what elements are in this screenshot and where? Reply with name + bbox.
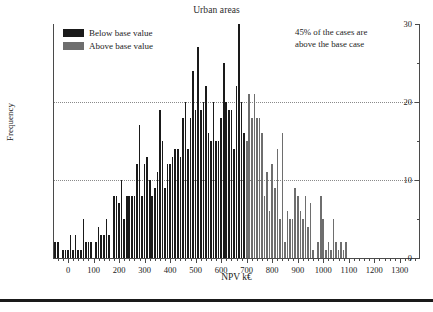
x-tick-minor <box>114 258 115 261</box>
histogram-bar <box>182 118 184 258</box>
x-tick-minor <box>134 258 135 261</box>
x-tick-0 <box>68 258 69 263</box>
histogram-bar <box>126 196 128 258</box>
histogram-bar <box>192 71 194 258</box>
histogram-bar <box>159 110 161 258</box>
x-tick-minor <box>267 258 268 261</box>
legend-swatch-above <box>63 42 84 50</box>
x-tick-minor <box>211 258 212 261</box>
histogram-bar <box>340 242 342 258</box>
y-axis-title: Frequency <box>5 103 15 141</box>
x-tick-label-1100: 1100 <box>340 265 357 275</box>
histogram-bar <box>333 219 335 258</box>
histogram-bar <box>77 250 79 258</box>
histogram-bar <box>67 250 69 258</box>
histogram-bar <box>141 196 143 258</box>
x-tick-minor <box>288 258 289 261</box>
x-tick-minor <box>191 258 192 261</box>
histogram-bar <box>243 133 245 258</box>
x-tick-label-900: 900 <box>291 265 304 275</box>
x-tick-minor <box>201 258 202 261</box>
histogram-bar <box>100 235 102 258</box>
x-tick-minor <box>318 258 319 261</box>
histogram-bar <box>213 102 215 258</box>
histogram-bar <box>335 242 337 258</box>
x-tick-minor <box>140 258 141 261</box>
x-tick-1000 <box>323 258 324 263</box>
histogram-bar <box>302 219 304 258</box>
annotation-line-1: 45% of the cases are <box>295 27 367 39</box>
x-tick-minor <box>83 258 84 261</box>
x-tick-minor <box>257 258 258 261</box>
histogram-bar <box>215 141 217 258</box>
histogram-bar <box>75 235 77 258</box>
histogram-bar <box>312 250 314 258</box>
histogram-bar <box>208 133 210 258</box>
histogram-bar <box>223 63 225 258</box>
x-tick-minor <box>369 258 370 261</box>
x-tick-300 <box>145 258 146 263</box>
histogram-bar <box>233 149 235 258</box>
x-tick-minor <box>395 258 396 261</box>
x-tick-minor <box>359 258 360 261</box>
x-tick-minor <box>88 258 89 261</box>
histogram-bar <box>123 219 125 258</box>
histogram-bar <box>177 149 179 258</box>
x-tick-minor <box>160 258 161 261</box>
histogram-bar <box>305 196 307 258</box>
histogram-bar <box>131 196 133 258</box>
histogram-bar <box>345 242 347 258</box>
x-tick-minor <box>242 258 243 261</box>
histogram-bar <box>261 133 263 258</box>
histogram-bar <box>57 242 59 258</box>
histogram-bar <box>300 211 302 258</box>
histogram-bar <box>139 125 141 258</box>
histogram-bar <box>282 133 284 258</box>
x-tick-minor <box>405 258 406 261</box>
histogram-bar <box>70 235 72 258</box>
histogram-bar <box>174 149 176 258</box>
histogram-bar <box>169 164 171 258</box>
x-tick-minor <box>339 258 340 261</box>
histogram-bar <box>241 102 243 258</box>
histogram-bar <box>162 141 164 258</box>
histogram-bar <box>330 250 332 258</box>
legend-label-above: Above base value <box>89 41 153 51</box>
x-tick-label-500: 500 <box>189 265 202 275</box>
histogram-bar <box>279 219 281 258</box>
x-tick-600 <box>221 258 222 263</box>
histogram-bar <box>151 196 153 258</box>
x-tick-label-1200: 1200 <box>366 265 383 275</box>
x-tick-minor <box>252 258 253 261</box>
x-tick-minor <box>293 258 294 261</box>
x-tick-minor <box>415 258 416 261</box>
histogram-bar <box>248 94 250 258</box>
x-tick-minor <box>109 258 110 261</box>
histogram-bar <box>85 242 87 258</box>
x-tick-minor <box>354 258 355 261</box>
x-axis-title: NPV k€ <box>54 272 419 282</box>
x-tick-label-700: 700 <box>240 265 253 275</box>
x-tick-minor <box>165 258 166 261</box>
x-tick-minor <box>58 258 59 261</box>
histogram-bar <box>95 242 97 258</box>
histogram-bar <box>185 102 187 258</box>
x-tick-minor <box>150 258 151 261</box>
x-tick-minor <box>99 258 100 261</box>
histogram-bar <box>343 250 345 258</box>
histogram-bar <box>144 164 146 258</box>
histogram-bar <box>289 219 291 258</box>
histogram-bar <box>271 164 273 258</box>
legend: Below base value Above base value <box>63 27 153 53</box>
histogram-bar <box>65 250 67 258</box>
x-tick-minor <box>175 258 176 261</box>
histogram-bar <box>297 196 299 258</box>
annotation-line-2: above the base case <box>295 39 367 51</box>
histogram-bar <box>128 196 130 258</box>
histogram-bar <box>187 149 189 258</box>
x-tick-label-600: 600 <box>215 265 228 275</box>
x-tick-minor <box>303 258 304 261</box>
histogram-bar <box>62 250 64 258</box>
histogram-bar <box>180 157 182 258</box>
histogram-bars <box>54 24 419 258</box>
